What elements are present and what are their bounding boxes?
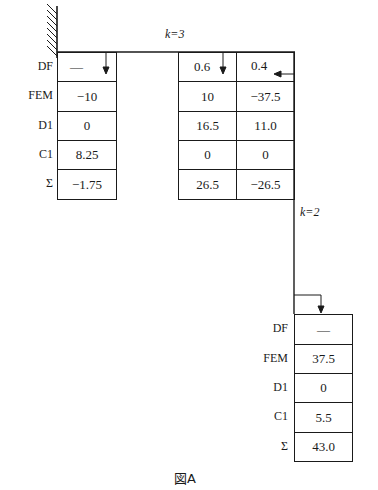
right-column-sum-cell: −26.5 <box>236 169 295 200</box>
bottom-row-label-sum: Σ <box>248 432 288 461</box>
bottom-c1-cell: 5.5 <box>294 402 353 433</box>
right-column-df-value: 0.4 <box>251 58 267 74</box>
beam-stiffness-label: k=3 <box>165 27 184 42</box>
fixed-support-icon <box>47 4 57 58</box>
right-column-df-cell: 0.4 <box>236 52 295 82</box>
bottom-row-label-c1: C1 <box>248 402 288 431</box>
figure-caption: 図A <box>174 468 196 487</box>
right-beam-d1-cell: 16.5 <box>178 111 237 141</box>
row-label-d1: D1 <box>13 111 53 140</box>
row-label-fem: FEM <box>13 81 53 110</box>
row-label-c1: C1 <box>13 140 53 169</box>
right-column-c1-cell: 0 <box>236 140 295 170</box>
bottom-fem-cell: 37.5 <box>294 344 353 374</box>
right-column-d1-cell: 11.0 <box>236 111 295 141</box>
df-arrow-bottom-icon <box>294 295 324 313</box>
left-d1-cell: 0 <box>57 111 117 141</box>
bottom-d1-cell: 0 <box>294 373 353 403</box>
bottom-sum-cell: 43.0 <box>294 432 353 462</box>
bottom-row-label-fem: FEM <box>248 344 288 373</box>
right-beam-c1-cell: 0 <box>178 140 237 170</box>
left-df-value: — <box>70 59 83 75</box>
left-sum-cell: −1.75 <box>57 169 117 200</box>
row-label-df: DF <box>13 52 53 81</box>
right-column-fem-cell: −37.5 <box>236 81 295 112</box>
right-beam-sum-cell: 26.5 <box>178 169 237 200</box>
right-beam-df-cell: 0.6 <box>178 52 237 82</box>
left-fem-cell: −10 <box>57 81 117 112</box>
left-df-cell: — <box>57 52 117 82</box>
bottom-row-label-df: DF <box>248 314 288 343</box>
bottom-row-label-d1: D1 <box>248 373 288 402</box>
left-c1-cell: 8.25 <box>57 140 117 170</box>
bottom-df-cell: — <box>294 314 353 345</box>
right-beam-df-value: 0.6 <box>194 59 210 75</box>
row-label-sum: Σ <box>13 169 53 198</box>
column-stiffness-label: k=2 <box>300 205 319 220</box>
right-beam-fem-cell: 10 <box>178 81 237 112</box>
